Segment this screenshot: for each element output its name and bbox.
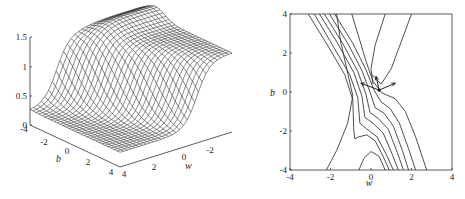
w-tick-label: 4 [450, 172, 455, 182]
w-tick-label: -2 [206, 145, 214, 155]
b-tick-label: -4 [280, 165, 288, 175]
surface-mesh [30, 6, 232, 153]
b-tick-label: 2 [86, 157, 91, 167]
b-tick-label: 2 [283, 48, 288, 58]
b-tick-label: 4 [109, 167, 114, 177]
contour-line [335, 14, 416, 170]
b-tick-label: -4 [20, 124, 28, 134]
z-tick-label: 1 [23, 62, 28, 72]
w-axis-label: w [185, 160, 192, 171]
b-tick-label: 0 [65, 146, 70, 156]
surface-plot: 1.510.50 -4-2024 420-2 b w [16, 6, 232, 180]
w-tick-label: -2 [327, 172, 335, 182]
z-tick-label: 0.5 [16, 91, 28, 101]
w-tick-label: 2 [152, 162, 157, 172]
b-axis-label: b [56, 153, 61, 164]
b-tick-label: 4 [283, 9, 288, 19]
wireframe [30, 6, 232, 153]
contour-line [330, 14, 409, 170]
contour-plot: -4-2024 420-2-4 w b [270, 9, 455, 188]
b-tick-label: -2 [280, 126, 288, 136]
w-tick-label: 4 [122, 169, 127, 179]
figure: 1.510.50 -4-2024 420-2 b w -4-2024 420-2… [0, 0, 465, 199]
b-axis-label: b [270, 87, 275, 98]
b-tick-label: -2 [40, 137, 48, 147]
gradient-arrows [361, 76, 395, 91]
contour-line [372, 14, 412, 84]
z-tick-labels: 1.510.50 [16, 32, 28, 130]
w-tick-label: -4 [286, 172, 294, 182]
b-tick-label: 0 [283, 87, 288, 97]
z-tick-label: 1.5 [16, 32, 28, 42]
contour-lines [308, 14, 427, 170]
contour-line [371, 14, 385, 84]
contour-line [359, 152, 385, 171]
contour-frame [290, 14, 452, 170]
w-tick-label: 2 [409, 172, 414, 182]
w-axis-label: w [366, 177, 373, 188]
contour-line [324, 14, 403, 170]
b-tick-labels: -4-2024 [20, 124, 114, 177]
w-axis [120, 132, 232, 167]
